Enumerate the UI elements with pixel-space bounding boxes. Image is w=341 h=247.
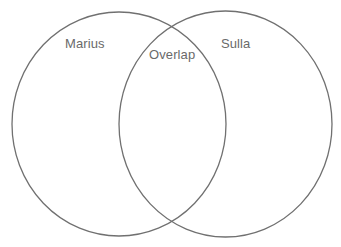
venn-diagram [0, 0, 341, 247]
overlap-label: Overlap [149, 48, 195, 62]
marius-label: Marius [65, 37, 105, 51]
sulla-label: Sulla [221, 37, 250, 51]
